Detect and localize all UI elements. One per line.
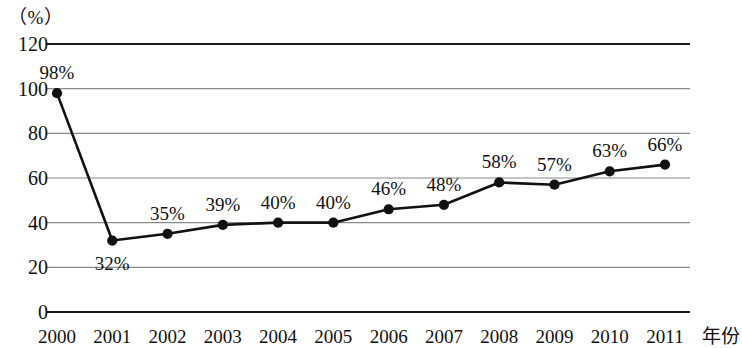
x-axis-title: 年份 [702,327,740,346]
data-point-marker [218,220,228,230]
x-axis-tick-label: 2009 [535,327,573,346]
y-axis-tick-label: 120 [2,34,48,54]
data-point-label: 35% [150,204,185,223]
data-point-marker [549,180,559,190]
data-point-label: 48% [426,175,461,194]
data-point-marker [328,218,338,228]
data-point-label: 39% [205,195,240,214]
data-point-markers [52,88,670,246]
data-point-label: 57% [537,155,572,174]
y-axis-tick-label: 80 [2,123,48,143]
data-point-label: 46% [371,179,406,198]
x-axis-tick-label: 2003 [204,327,242,346]
y-axis-tick-label: 60 [2,168,48,188]
gridlines [47,44,690,312]
x-axis-tick-label: 2008 [480,327,518,346]
x-axis-tick-label: 2004 [259,327,297,346]
data-point-label: 63% [592,141,627,160]
data-point-label: 58% [482,152,517,171]
data-point-label: 40% [261,193,296,212]
x-axis-tick-label: 2001 [93,327,131,346]
x-axis-tick-label: 2011 [646,327,683,346]
y-axis-tick-label: 40 [2,213,48,233]
data-point-label: 98% [40,63,75,82]
data-point-label: 32% [95,254,130,273]
data-point-marker [384,204,394,214]
plot-area [0,0,742,348]
x-axis-tick-label: 2000 [38,327,76,346]
data-point-label: 40% [316,193,351,212]
data-point-marker [162,229,172,239]
data-line [57,93,665,240]
data-point-marker [107,235,117,245]
x-axis-tick-label: 2007 [425,327,463,346]
data-point-marker [52,88,62,98]
line-chart: （%） 020406080100120 20002001200220032004… [0,0,742,348]
x-axis-tick-label: 2002 [149,327,187,346]
data-point-marker [273,218,283,228]
data-point-marker [439,200,449,210]
x-axis-tick-label: 2010 [591,327,629,346]
x-axis-tick-label: 2006 [370,327,408,346]
y-axis-tick-label: 20 [2,257,48,277]
x-axis-tick-label: 2005 [314,327,352,346]
data-point-marker [494,177,504,187]
data-point-marker [605,166,615,176]
data-point-label: 66% [648,135,683,154]
data-point-marker [660,160,670,170]
y-axis-tick-label: 0 [2,302,48,322]
